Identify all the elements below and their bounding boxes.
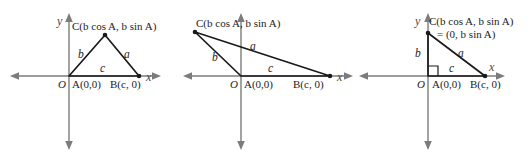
x-axis-label-panel2: x [337,71,342,83]
side-a-label-panel3: a [458,48,464,60]
y-axis-bottom-arrow-panel3 [424,141,432,150]
y-axis-label-panel1: y [57,15,62,27]
side-a-label-panel2: a [250,41,256,53]
y-axis-bottom-arrow-panel1 [65,141,73,150]
vertex-c-dot-panel3 [426,31,431,36]
side-c-label-panel1: c [100,63,105,75]
side-a-label-panel1: a [124,49,130,61]
side-c-label-panel3: c [449,63,454,75]
vertex-c-dot-panel1 [103,33,108,38]
vertex-b-dot-panel2 [328,74,333,79]
vertex-c-dot-panel2 [193,30,198,35]
x-axis-right-arrow-panel2 [344,72,353,80]
x-axis-left-arrow-panel1 [10,72,19,80]
origin-label-panel2: O [230,79,238,90]
point-b-label-panel1: B(c, 0) [110,79,141,90]
figure-container: y x O A(0,0) B(c, 0) C(b cos A, b sin A)… [0,0,532,161]
point-c-label-panel2: C(b cos A, b sin A) [196,18,280,29]
side-b-label-panel1: b [78,49,84,61]
x-axis-label-panel3: x [489,61,494,73]
point-c-label-panel1: C(b cos A, b sin A) [72,21,156,32]
y-axis-bottom-arrow-panel2 [237,141,245,150]
point-a-label-panel3: A(0,0) [432,79,461,90]
point-a-label-panel2: A(0,0) [244,79,273,90]
origin-label-panel3: O [417,79,425,90]
x-axis-right-arrow-panel1 [152,72,161,80]
point-b-label-panel2: B(c, 0) [293,79,324,90]
point-c-alt-label-panel3: = (0, b sin A) [437,29,495,40]
side-b-label-panel3: b [415,48,421,60]
side-c-label-panel2: c [268,63,273,75]
point-b-label-panel3: B(c, 0) [470,79,501,90]
origin-label-panel1: O [58,79,66,90]
right-angle-marker-panel3 [428,66,438,76]
x-axis-left-arrow-panel2 [183,72,192,80]
point-c-label-panel3: C(b cos A, b sin A) [429,16,513,27]
side-b-label-panel2: b [212,52,218,64]
y-axis-label-panel3: y [415,15,420,27]
x-axis-label-panel1: x [146,71,151,83]
point-a-label-panel1: A(0,0) [72,79,101,90]
x-axis-left-arrow-panel3 [359,72,368,80]
